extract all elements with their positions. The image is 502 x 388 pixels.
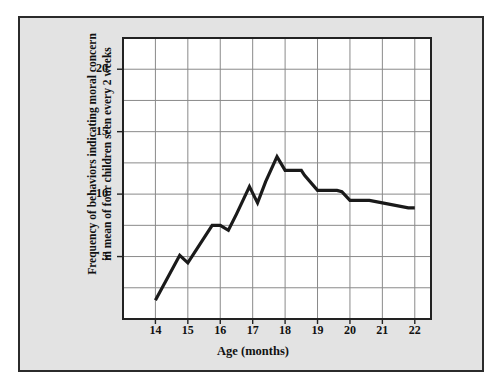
y-tick-label: 20 bbox=[82, 61, 108, 76]
chart-area: Frequency of behaviors indicating moral … bbox=[20, 18, 486, 374]
figure-root: Frequency of behaviors indicating moral … bbox=[0, 0, 502, 388]
y-tick-label: 10 bbox=[82, 186, 108, 201]
x-tick-label: 14 bbox=[143, 323, 167, 338]
x-tick-label: 22 bbox=[403, 323, 427, 338]
y-tick-label: 15 bbox=[82, 124, 108, 139]
x-tick-label: 17 bbox=[241, 323, 265, 338]
x-tick-label: 19 bbox=[306, 323, 330, 338]
x-tick-label: 20 bbox=[338, 323, 362, 338]
x-tick-label: 16 bbox=[208, 323, 232, 338]
x-tick-label: 18 bbox=[273, 323, 297, 338]
figure-frame: Frequency of behaviors indicating moral … bbox=[18, 16, 484, 372]
y-tick-label: 5 bbox=[82, 249, 108, 264]
x-tick-label: 21 bbox=[370, 323, 394, 338]
x-tick-label: 15 bbox=[176, 323, 200, 338]
